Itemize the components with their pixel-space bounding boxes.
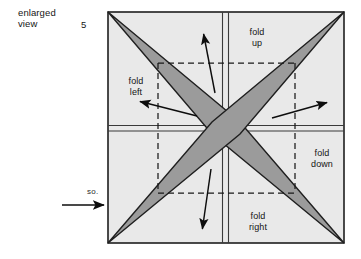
label-fold-right-line1: fold — [239, 211, 277, 223]
label-fold-right-line2: right — [239, 222, 277, 234]
step-number: 5 — [81, 19, 86, 30]
so-label: so. — [87, 186, 99, 197]
label-fold-up-line2: up — [240, 38, 274, 50]
label-fold-left-line2: left — [119, 87, 153, 99]
origami-fold-diagram — [0, 0, 361, 259]
label-fold-left-line1: fold — [119, 76, 153, 88]
caption-enlarged-view-line1: enlarged — [18, 7, 56, 19]
label-fold-up-line1: fold — [240, 27, 274, 39]
caption-enlarged-view-line2: view — [18, 18, 37, 30]
label-fold-down-line1: fold — [302, 148, 342, 160]
label-fold-down-line2: down — [302, 159, 342, 171]
